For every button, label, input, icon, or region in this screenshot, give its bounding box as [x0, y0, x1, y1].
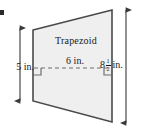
- edge-artifact-mark: [0, 10, 4, 15]
- trapezoid-figure: Trapezoid 6 in. 5 in. 8 1 2 in.: [0, 0, 143, 132]
- mixed-number: 8 1 2: [100, 58, 111, 72]
- unit-label: in.: [113, 60, 123, 70]
- fraction-numerator: 1: [106, 58, 111, 64]
- shape-name-label: Trapezoid: [45, 36, 107, 46]
- right-height-label: 8 1 2 in.: [100, 58, 123, 72]
- fraction: 1 2: [106, 58, 111, 72]
- whole-number-part: 8: [100, 60, 105, 70]
- left-height-label: 5 in.: [1, 62, 34, 72]
- midsegment-length-label: 6 in.: [46, 56, 104, 66]
- fraction-denominator: 2: [106, 66, 111, 72]
